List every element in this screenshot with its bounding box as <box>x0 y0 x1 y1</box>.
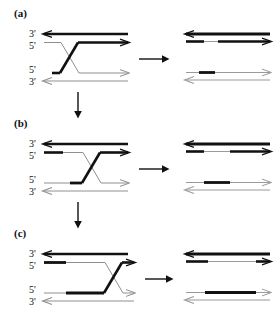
panel-a-reaction-arrow <box>139 55 170 63</box>
panel-b-junction-exchanged-strand <box>82 149 130 183</box>
panel-a-junction-bottom-strand-lower <box>43 78 129 85</box>
panel-c-junction-bottom-strand-lower <box>43 298 135 305</box>
panel-a-product-top <box>185 31 272 45</box>
panel-a: (a) 3' 5' 5' 3' <box>0 0 276 110</box>
panel-a-junction-top-strand-lower <box>44 43 130 77</box>
panel-b: (b) 3' 5' 5' 3' <box>0 110 276 220</box>
panel-b-reaction-arrow <box>139 165 170 173</box>
dna-branch-migration-figure: (a) 3' 5' 5' 3' <box>0 0 276 332</box>
panel-c-reaction-arrow <box>145 275 174 283</box>
panel-c-junction-top-strand-upper <box>43 251 129 258</box>
panel-c: (c) 3' 5' 5' 3' <box>0 220 276 332</box>
panel-b-junction-top-strand-upper <box>43 141 129 148</box>
panel-b-product-top <box>185 141 272 155</box>
panel-b-junction-top-strand-lower <box>44 153 130 187</box>
panel-c-junction-top-strand-lower <box>44 263 136 297</box>
panel-c-product-top <box>185 251 272 265</box>
panel-b-graphic <box>0 110 276 220</box>
panel-a-junction-top-strand-upper <box>43 31 129 38</box>
panel-a-graphic <box>0 0 276 110</box>
panel-b-product-bottom <box>185 179 272 193</box>
panel-a-product-bottom <box>185 69 272 83</box>
panel-c-graphic <box>0 220 276 332</box>
panel-c-product-bottom <box>185 289 272 303</box>
panel-b-junction-bottom-strand-lower <box>43 188 129 195</box>
panel-a-junction-exchanged-strand <box>60 39 130 73</box>
